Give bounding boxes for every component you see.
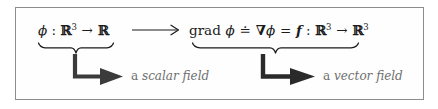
vector-domain-set-symbol: ℝ [315, 22, 326, 38]
scalar-field-article: a [131, 69, 142, 83]
gradient-definition-figure: ϕ : ℝ3 → ℝ grad ϕ ≐ ∇ϕ = f : ℝ3 → ℝ3 a s… [0, 0, 438, 109]
grad-operand-phi: ϕ [226, 22, 235, 38]
vector-codomain-set-symbol: ℝ [352, 22, 363, 38]
expression-colon: : [302, 22, 315, 38]
scalar-field-callout-arrow-icon [70, 53, 128, 85]
vector-codomain-exponent: 3 [363, 22, 368, 32]
nabla-operand-phi: ϕ [266, 22, 275, 38]
expression-colon: : [47, 22, 60, 38]
scalar-field-callout-label: a scalar field [131, 70, 209, 82]
vector-field-callout-arrow-icon [258, 53, 320, 85]
codomain-set-symbol: ℝ [98, 22, 109, 38]
nabla-icon: ∇ [256, 22, 266, 38]
scalar-field-expression: ϕ : ℝ3 → ℝ [38, 24, 109, 38]
long-right-arrow-icon [131, 23, 183, 37]
phi-symbol: ϕ [38, 22, 47, 38]
gradient-expression: grad ϕ ≐ ∇ϕ = f : ℝ3 → ℝ3 [189, 24, 369, 38]
domain-set-symbol: ℝ [60, 22, 71, 38]
equals-sign: = [280, 22, 291, 38]
vector-field-callout-label: a vector field [323, 70, 403, 82]
grad-operator: grad [189, 22, 221, 38]
scalar-field-term: scalar field [142, 69, 209, 83]
defined-equals-sign: ≐ [240, 22, 251, 38]
vector-field-article: a [323, 69, 334, 83]
maps-to-arrow-icon: → [82, 22, 93, 38]
maps-to-arrow-icon: → [336, 22, 347, 38]
vector-field-term: vector field [334, 69, 403, 83]
